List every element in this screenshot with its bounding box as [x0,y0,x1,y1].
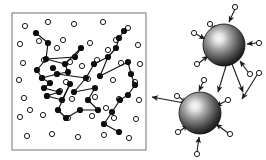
open-circle [92,94,97,99]
filled-node [62,61,68,67]
filled-node [33,30,39,36]
open-circle [36,38,41,43]
open-circle [69,96,74,101]
open-circle [89,113,94,118]
filled-node [47,80,53,86]
filled-node [125,59,131,65]
lower-sphere [179,92,221,134]
filled-node [117,97,123,103]
open-circle [135,42,140,47]
figure-canvas [0,0,266,160]
filled-node [78,45,84,51]
filled-node [97,73,103,79]
arrow-tail-circle [174,93,179,98]
filled-node [39,75,45,81]
figure-container [0,0,266,160]
filled-node [44,93,50,99]
filled-node [59,97,65,103]
filled-node [116,129,122,135]
open-circle [49,131,54,136]
open-circle [45,19,50,24]
filled-node [85,97,91,103]
arrow-tail-circle [191,30,196,35]
open-circle [54,45,59,50]
open-circle [17,114,22,119]
filled-node [43,56,49,62]
arrow-tail-circle [232,4,237,9]
filled-node [109,109,115,115]
filled-node [63,115,69,121]
open-circle [22,23,27,28]
filled-node [34,67,40,73]
filled-node [50,65,56,71]
open-circle [103,105,108,110]
open-circle [111,115,116,120]
filled-node [55,107,61,113]
filled-node [113,45,119,51]
filled-node [132,82,138,88]
filled-node [105,54,111,60]
filled-node [56,89,62,95]
left-panel [12,13,146,150]
open-circle [137,61,142,66]
filled-node [116,35,122,41]
arrow-tail-circle [256,70,261,75]
open-circle [60,37,65,42]
open-circle [17,41,22,46]
open-circle [101,132,106,137]
filled-node [45,40,51,46]
open-circle [126,135,131,140]
open-circle [87,40,92,45]
filled-node [65,69,71,75]
filled-node [71,89,77,95]
open-circle [100,19,105,24]
filled-node [128,71,134,77]
open-circle [40,112,45,117]
arrow-tail-circle [207,21,212,26]
filled-node [72,54,78,60]
filled-node [77,107,83,113]
open-circle [133,116,138,121]
open-circle [71,21,76,26]
filled-node [95,107,101,113]
arrow-tail-circle [256,40,261,45]
open-circle [110,77,115,82]
open-circle [24,133,29,138]
filled-node [121,28,127,34]
arrow-tail-circle [247,71,252,76]
filled-node [41,85,47,91]
arrow-tail-circle [201,77,206,82]
filled-node [101,121,107,127]
open-circle [16,77,21,82]
open-circle [105,47,110,52]
filled-node [54,71,60,77]
arrow-tail-circle [194,61,199,66]
arrow-tail-circle [227,131,232,136]
open-circle [21,95,26,100]
filled-node [91,61,97,67]
open-circle [27,107,32,112]
arrow-tail-circle [225,97,230,102]
upper-sphere [203,24,245,66]
arrow-tail-circle [194,151,199,156]
filled-node [83,75,89,81]
filled-node [125,92,131,98]
open-circle [136,97,141,102]
open-circle [20,60,25,65]
arrow-tail-circle [175,129,180,134]
panel-border-box [12,13,146,150]
open-circle [79,63,84,68]
filled-node [92,85,98,91]
open-circle [75,134,80,139]
filled-node [67,81,73,87]
